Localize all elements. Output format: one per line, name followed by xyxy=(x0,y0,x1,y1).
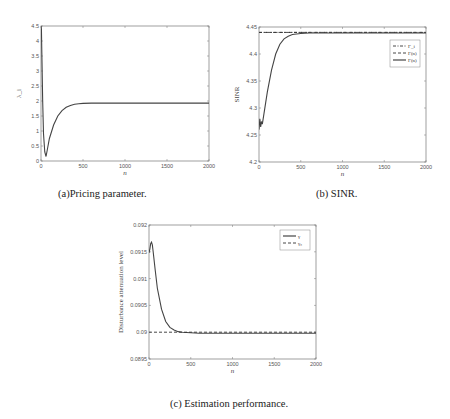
y-tick-label: 1 xyxy=(36,128,39,134)
y-tick-label: 4.2 xyxy=(249,159,257,165)
y-tick-label: 4 xyxy=(36,38,39,44)
y-tick-label: 2 xyxy=(36,98,39,104)
x-tick-label: 2000 xyxy=(203,163,215,169)
x-tick-label: 500 xyxy=(186,361,195,367)
x-axis-label: n xyxy=(231,367,235,375)
legend: γγ₀ xyxy=(280,230,310,250)
figure-a-pricing-parameter: 050010001500200000.511.522.533.544.5nλ_i xyxy=(0,0,225,200)
y-tick-label: 4.4 xyxy=(249,51,257,57)
y-tick-label: 3 xyxy=(36,68,39,74)
y-tick-label: 4.5 xyxy=(31,23,39,29)
x-tick-label: 1500 xyxy=(268,361,280,367)
y-tick-label: 0.0895 xyxy=(130,356,147,362)
plot-area xyxy=(41,26,209,161)
y-tick-label: 0.0915 xyxy=(130,249,147,255)
figure-b-sinr: 05001000150020004.24.254.34.354.44.45nSI… xyxy=(225,0,450,200)
legend-entry: Γ_i xyxy=(408,44,415,49)
y-tick-label: 0 xyxy=(36,158,39,164)
x-tick-label: 1500 xyxy=(378,164,390,170)
chart-b: 05001000150020004.24.254.34.354.44.45nSI… xyxy=(225,0,450,200)
y-axis-label: λ_i xyxy=(15,89,23,98)
y-tick-label: 4.25 xyxy=(246,132,257,138)
x-tick-label: 500 xyxy=(296,164,305,170)
caption-c: (c) Estimation performance. xyxy=(170,398,288,409)
x-tick-label: 2000 xyxy=(310,361,322,367)
y-tick-label: 3.5 xyxy=(31,53,39,59)
legend-entry: Γ(n) xyxy=(408,51,417,56)
y-tick-label: 0.092 xyxy=(133,222,147,228)
caption-a: (a)Pricing parameter. xyxy=(58,188,147,199)
x-tick-label: 0 xyxy=(147,361,150,367)
y-axis-label: Disturbance attenuation level xyxy=(117,251,125,333)
y-tick-label: 2.5 xyxy=(31,83,39,89)
y-tick-label: 4.45 xyxy=(246,24,257,30)
caption-b: (b) SINR. xyxy=(316,188,357,199)
x-tick-label: 0 xyxy=(257,164,260,170)
x-tick-label: 0 xyxy=(39,163,42,169)
series-line xyxy=(41,26,209,157)
y-tick-label: 0.091 xyxy=(133,276,147,282)
legend-entry: Γ(n) xyxy=(408,58,417,63)
y-tick-label: 0.5 xyxy=(31,143,39,149)
legend: Γ_iΓ(n)Γ(n) xyxy=(390,40,420,67)
y-tick-label: 4.3 xyxy=(249,105,257,111)
y-axis-label: SINR xyxy=(233,86,241,102)
x-axis-label: n xyxy=(123,169,127,177)
figure-c-estimation-performance: 05001000150020000.08950.090.09050.0910.0… xyxy=(100,205,350,385)
x-tick-label: 1500 xyxy=(161,163,173,169)
chart-a: 050010001500200000.511.522.533.544.5nλ_i xyxy=(0,0,225,200)
series-line xyxy=(149,242,316,333)
x-axis-label: n xyxy=(341,170,345,178)
x-tick-label: 2000 xyxy=(420,164,432,170)
x-tick-label: 500 xyxy=(78,163,87,169)
chart-c: 05001000150020000.08950.090.09050.0910.0… xyxy=(100,205,350,385)
y-tick-label: 0.09 xyxy=(136,329,147,335)
y-tick-label: 1.5 xyxy=(31,113,39,119)
y-tick-label: 0.0905 xyxy=(130,302,147,308)
y-tick-label: 4.35 xyxy=(246,78,257,84)
legend-entry: γ₀ xyxy=(298,241,302,246)
